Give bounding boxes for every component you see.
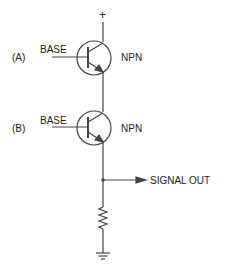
signal-out-label: SIGNAL OUT <box>150 175 210 186</box>
supply-plus-label: + <box>99 8 106 22</box>
transistor-a-base-label: BASE <box>40 44 67 55</box>
circuit-diagram: + (A) BASE NPN (B) BASE NPN SIGNAL OUT <box>0 0 228 269</box>
transistor-b-tag: (B) <box>12 123 25 134</box>
resistor-symbol <box>99 207 107 229</box>
transistor-a-tag: (A) <box>12 52 25 63</box>
signal-out-arrow-icon <box>136 177 146 183</box>
transistor-a-type-label: NPN <box>121 52 142 63</box>
junction-dot <box>101 178 105 182</box>
transistor-b-base-label: BASE <box>40 115 67 126</box>
transistor-b-type-label: NPN <box>121 123 142 134</box>
ground-icon <box>96 253 110 259</box>
